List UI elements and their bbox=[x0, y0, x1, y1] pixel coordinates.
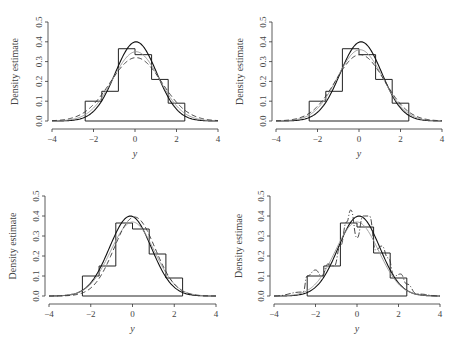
x-tick-label: 2 bbox=[398, 134, 403, 144]
y-tick-label: 0.4 bbox=[31, 210, 41, 222]
y-tick-label: 0.4 bbox=[258, 36, 268, 48]
x-tick-label: −2 bbox=[89, 134, 99, 144]
y-tick-label: 0.5 bbox=[34, 16, 44, 28]
y-tick-label: 0.1 bbox=[256, 270, 266, 281]
x-tick-label: −4 bbox=[44, 309, 54, 319]
y-tick-label: 0.2 bbox=[34, 76, 44, 87]
x-tick-label: −2 bbox=[86, 309, 96, 319]
panel-bottom-right: 0.00.10.20.30.40.5−4−2024yDensity estima… bbox=[233, 190, 443, 334]
x-axis-title: y bbox=[356, 148, 362, 159]
x-tick-label: 0 bbox=[355, 309, 360, 319]
x-tick-label: 4 bbox=[214, 309, 219, 319]
y-tick-label: 0.0 bbox=[256, 290, 266, 302]
x-tick-label: 4 bbox=[438, 309, 443, 319]
y-tick-label: 0.5 bbox=[31, 190, 41, 202]
x-tick-label: −2 bbox=[313, 134, 323, 144]
x-axis-title: y bbox=[354, 323, 360, 334]
y-tick-label: 0.1 bbox=[34, 96, 44, 107]
x-tick-label: 0 bbox=[133, 134, 138, 144]
y-tick-label: 0.1 bbox=[31, 270, 41, 281]
y-tick-label: 0.3 bbox=[256, 230, 266, 242]
x-tick-label: 2 bbox=[172, 309, 177, 319]
y-axis-title: Density estimate bbox=[9, 37, 20, 104]
y-axis-title: Density estimate bbox=[234, 37, 245, 104]
panel-bottom-left: 0.00.10.20.30.40.5−4−2024yDensity estima… bbox=[7, 190, 219, 334]
panel-top-right: 0.00.10.20.30.40.5−4−2024yDensity estima… bbox=[234, 16, 445, 159]
y-tick-label: 0.5 bbox=[258, 16, 268, 28]
y-tick-label: 0.3 bbox=[258, 55, 268, 67]
x-tick-label: 0 bbox=[357, 134, 362, 144]
x-tick-label: 4 bbox=[216, 134, 221, 144]
y-tick-label: 0.5 bbox=[256, 190, 266, 202]
x-tick-label: −4 bbox=[271, 134, 281, 144]
y-tick-label: 0.4 bbox=[34, 36, 44, 48]
x-tick-label: 0 bbox=[130, 309, 135, 319]
x-tick-label: −4 bbox=[269, 309, 279, 319]
y-tick-label: 0.3 bbox=[34, 55, 44, 67]
y-tick-label: 0.0 bbox=[31, 290, 41, 302]
y-axis-title: Density estimae bbox=[233, 213, 244, 278]
y-tick-label: 0.2 bbox=[31, 250, 41, 261]
panel-top-left: 0.00.10.20.30.40.5−4−2024yDensity estima… bbox=[9, 16, 221, 159]
y-tick-label: 0.2 bbox=[258, 76, 268, 87]
x-tick-label: 4 bbox=[440, 134, 445, 144]
y-axis-title: Density estimate bbox=[7, 212, 18, 279]
density-estimate-figure: 0.00.10.20.30.40.5−4−2024yDensity estima… bbox=[0, 0, 456, 341]
x-tick-label: 2 bbox=[396, 309, 401, 319]
x-tick-label: 2 bbox=[174, 134, 179, 144]
y-tick-label: 0.3 bbox=[31, 230, 41, 242]
y-tick-label: 0.1 bbox=[258, 96, 268, 107]
y-tick-label: 0.0 bbox=[258, 115, 268, 127]
x-tick-label: −4 bbox=[47, 134, 57, 144]
x-axis-title: y bbox=[132, 148, 138, 159]
y-tick-label: 0.0 bbox=[34, 115, 44, 127]
y-tick-label: 0.4 bbox=[256, 210, 266, 222]
x-tick-label: −2 bbox=[311, 309, 321, 319]
y-tick-label: 0.2 bbox=[256, 250, 266, 261]
x-axis-title: y bbox=[129, 323, 135, 334]
